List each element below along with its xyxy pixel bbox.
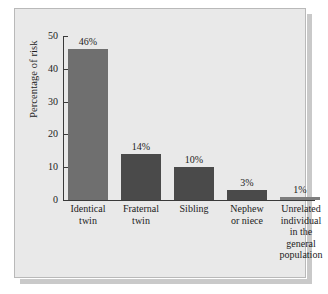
bar-value-nephew-or-niece: 3% — [240, 178, 253, 188]
x-category-line: population — [274, 249, 328, 261]
x-category-label-nephew-or-niece: Nephew or niece — [221, 203, 273, 226]
x-category-line: twin — [62, 215, 114, 227]
y-tick-0: 0 — [64, 200, 68, 201]
bar-sibling[interactable]: 10% — [174, 167, 214, 200]
plot-area: 0 10 20 30 40 50 46% 14% 10% 3% — [63, 36, 315, 200]
x-axis-line — [63, 200, 315, 201]
y-tick-label-50: 50 — [48, 31, 58, 41]
x-category-line: or niece — [221, 215, 273, 227]
bar-nephew-or-niece[interactable]: 3% — [227, 190, 267, 200]
x-category-label-unrelated-individual: Unrelated individual in the general popu… — [274, 203, 328, 261]
bar-unrelated-individual[interactable]: 1% — [280, 197, 320, 200]
bar-fraternal-twin[interactable]: 14% — [121, 154, 161, 200]
x-category-line: Nephew — [221, 203, 273, 215]
x-category-label-fraternal-twin: Fraternal twin — [115, 203, 167, 226]
bar-identical-twin[interactable]: 46% — [68, 49, 108, 200]
bar-value-fraternal-twin: 14% — [132, 142, 150, 152]
x-category-line: in the — [274, 226, 328, 238]
y-tick-label-30: 30 — [48, 97, 58, 107]
x-category-label-sibling: Sibling — [168, 203, 220, 215]
bar-value-identical-twin: 46% — [79, 37, 97, 47]
bar-value-sibling: 10% — [185, 155, 203, 165]
y-tick-50: 50 — [64, 36, 68, 37]
bar-value-unrelated-individual: 1% — [293, 185, 306, 195]
x-category-line: twin — [115, 215, 167, 227]
y-tick-label-40: 40 — [48, 64, 58, 74]
x-category-line: Identical — [62, 203, 114, 215]
bar-chart-figure: Percentage of risk 0 10 20 30 40 50 46% … — [14, 8, 306, 278]
x-category-line: Sibling — [168, 203, 220, 215]
y-tick-label-20: 20 — [48, 129, 58, 139]
x-category-line: Unrelated — [274, 203, 328, 215]
x-category-line: individual — [274, 215, 328, 227]
figure-shadow-bottom — [20, 279, 312, 284]
y-axis-line — [63, 36, 64, 200]
y-tick-label-10: 10 — [48, 162, 58, 172]
x-category-line: general — [274, 238, 328, 250]
y-tick-label-0: 0 — [53, 195, 58, 205]
x-category-line: Fraternal — [115, 203, 167, 215]
y-axis-title: Percentage of risk — [28, 40, 39, 118]
x-category-label-identical-twin: Identical twin — [62, 203, 114, 226]
